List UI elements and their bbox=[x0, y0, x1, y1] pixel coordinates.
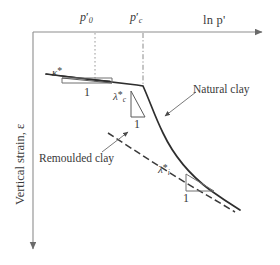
annotation-remoulded-clay: Remoulded clay bbox=[39, 153, 114, 165]
slope-label-lambda-c-star: λ*c bbox=[113, 90, 126, 104]
slope-label-lambda-i-star: λ*i bbox=[158, 163, 170, 177]
y-axis-label: Vertical strain, ε bbox=[14, 124, 27, 205]
unit-label-lambda-c: 1 bbox=[134, 118, 140, 130]
x-axis-label: ln p' bbox=[203, 14, 225, 27]
lambda-c-slope-triangle bbox=[131, 91, 145, 117]
unit-label-lambda-i: 1 bbox=[183, 192, 189, 204]
unit-label-kappa: 1 bbox=[84, 86, 90, 98]
figure-canvas bbox=[0, 0, 280, 265]
tick-label-pc: p′c bbox=[130, 11, 142, 25]
lambda-i-slope-triangle bbox=[186, 174, 214, 191]
annotation-natural-clay: Natural clay bbox=[193, 84, 250, 96]
tick-label-p0: p′0 bbox=[80, 11, 93, 25]
remoulded-clay-curve bbox=[108, 133, 235, 212]
compression-curve-figure: ln p' Vertical strain, ε p′0 p′c κ* 1 λ*… bbox=[0, 0, 280, 265]
remoulded-clay-leader bbox=[102, 132, 128, 152]
natural-clay-leader bbox=[165, 92, 196, 116]
slope-label-kappa-star: κ* bbox=[52, 66, 62, 78]
